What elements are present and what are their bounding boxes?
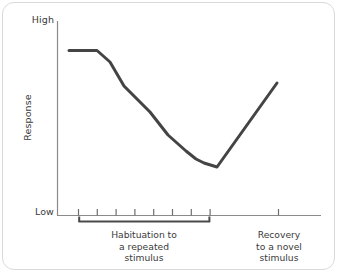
recovery-caption-line-2: to a novel: [238, 241, 320, 253]
recovery-region-caption: Recovery to a novel stimulus: [238, 229, 320, 264]
habituation-region-caption: Habituation to a repeated stimulus: [84, 229, 204, 264]
habituation-caption-line-3: stimulus: [84, 252, 204, 264]
recovery-caption-line-3: stimulus: [238, 252, 320, 264]
response-data-curve: [69, 51, 277, 168]
y-axis-title: Response: [22, 73, 33, 163]
habituation-caption-line-2: a repeated: [84, 241, 204, 253]
chart-figure: High Low Response Habituation to a repea…: [0, 0, 341, 276]
habituation-span-bracket: [79, 217, 211, 223]
recovery-caption-line-1: Recovery: [238, 229, 320, 241]
y-axis-low-label: Low: [22, 206, 54, 217]
x-axis-ticks-habituation: [79, 209, 211, 216]
habituation-caption-line-1: Habituation to: [84, 229, 204, 241]
y-axis-high-label: High: [22, 14, 54, 25]
